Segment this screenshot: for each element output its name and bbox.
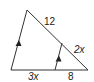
label-3x: 3x (28, 71, 40, 82)
triangle-diagram: 12 2x 3x 8 (0, 0, 94, 82)
label-12: 12 (44, 16, 56, 27)
parallel-arrow-icon (16, 40, 22, 46)
label-8: 8 (68, 71, 74, 82)
parallel-arrow-icon (56, 56, 62, 62)
label-2x: 2x (73, 44, 86, 55)
